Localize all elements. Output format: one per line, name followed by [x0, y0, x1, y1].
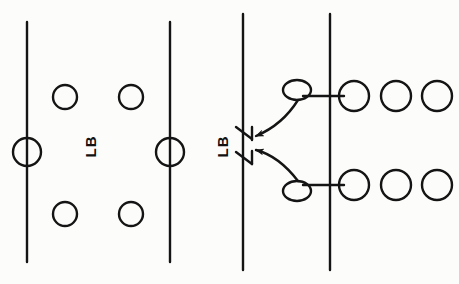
left-panel: [13, 22, 184, 262]
circle-bottom-row-3: [422, 170, 452, 200]
circle-top-left: [53, 85, 77, 109]
circle-bottom-left: [53, 202, 77, 226]
blitz-arrow-lower: [256, 150, 298, 181]
circle-top-row-2: [381, 81, 411, 111]
circle-bottom-right: [119, 202, 143, 226]
linebacker-label-right: LB: [215, 136, 230, 158]
circle-top-row-3: [422, 81, 452, 111]
circle-bottom-row-2: [381, 170, 411, 200]
diagram-canvas: LB LB: [0, 0, 459, 284]
right-panel: [236, 14, 452, 270]
blitz-arrow-upper: [256, 100, 298, 136]
linebacker-label-left: LB: [83, 136, 98, 158]
circle-top-right: [119, 85, 143, 109]
